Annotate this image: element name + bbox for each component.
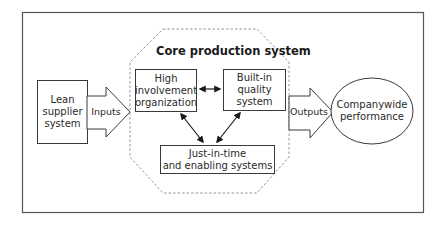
high-line-1: High: [155, 73, 178, 85]
lean-line-2: supplier: [42, 106, 82, 118]
inputs-label: Inputs: [87, 104, 125, 120]
jit-label: Just-in-time and enabling systems: [160, 145, 275, 174]
builtin-line-1: Built-in: [237, 72, 272, 84]
inputs-text: Inputs: [91, 106, 121, 118]
lean-supplier-label: Lean supplier system: [37, 80, 88, 144]
lean-line-3: system: [44, 118, 80, 130]
companywide-line-1: Companywide: [336, 99, 407, 111]
core-production-title: Core production system: [156, 44, 311, 58]
arrow-builtin-jit: [217, 113, 240, 142]
outputs-text: Outputs: [290, 106, 328, 118]
builtin-line-2: quality: [237, 84, 271, 96]
builtin-line-3: system: [236, 96, 272, 108]
companywide-line-2: performance: [340, 111, 404, 123]
arrow-high-jit: [181, 114, 203, 142]
jit-line-1: Just-in-time: [189, 148, 246, 160]
lean-line-1: Lean: [50, 94, 74, 106]
jit-line-2: and enabling systems: [163, 160, 273, 172]
high-line-3: organization: [135, 97, 197, 109]
high-involvement-label: High involvement organization: [135, 69, 197, 112]
companywide-label: Companywide performance: [331, 96, 413, 126]
outputs-label: Outputs: [289, 104, 329, 120]
high-line-2: involvement: [135, 85, 197, 97]
built-in-quality-label: Built-in quality system: [223, 69, 286, 111]
